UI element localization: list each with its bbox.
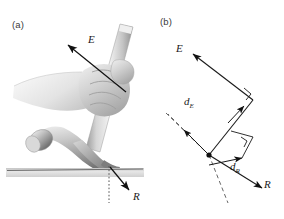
nail-axis-dashed-lower — [209, 155, 228, 203]
hammer-head — [23, 126, 120, 174]
panel-a-effort-label: E — [88, 33, 95, 45]
resistance-right-angle-marker — [241, 137, 247, 147]
effort-moment-arm — [184, 130, 209, 155]
panel-b-resistance-label: R — [264, 178, 271, 190]
physics-figure-lever-hammer: (a) E R — [0, 0, 284, 219]
panel-a-label: (a) — [12, 19, 24, 30]
pivot-point — [206, 152, 211, 157]
effort-moment-arm-label: dE — [184, 95, 194, 110]
panel-b-vector-diagram: (b) E R dE dR — [146, 0, 284, 219]
effort-line-of-action — [193, 54, 253, 100]
effort-arm-dashed-extension — [168, 114, 184, 130]
panel-b-effort-label: E — [176, 42, 183, 54]
panel-a-resistance-label: R — [133, 190, 140, 202]
hand-grip — [79, 60, 134, 117]
resistance-arm-top-connector — [231, 131, 253, 137]
panel-b-label: (b) — [160, 16, 172, 27]
resistance-moment-arm-label: dR — [230, 160, 240, 175]
panel-a-graphics — [0, 0, 146, 219]
board-surface — [6, 168, 144, 177]
lever-arm-line — [209, 100, 253, 155]
resistance-arm-connector — [242, 137, 253, 158]
panel-a-hammer-photo: (a) E R — [0, 0, 146, 219]
